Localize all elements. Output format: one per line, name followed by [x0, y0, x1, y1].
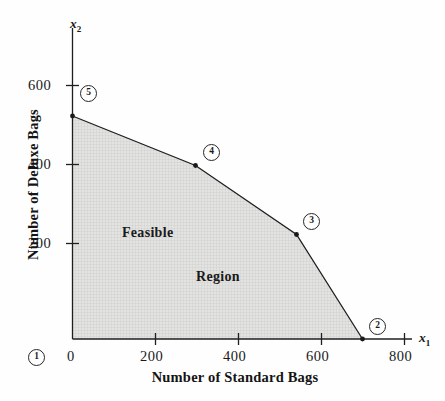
plot-canvas	[0, 0, 445, 401]
x-tick-label-800: 800	[389, 349, 412, 364]
x-axis-variable-label: x1	[419, 331, 430, 348]
feasible-annotation: Feasible	[122, 226, 173, 240]
x-tick-label-200: 200	[140, 349, 163, 364]
vertex-badge-1: 1	[28, 349, 45, 366]
x-tick-label-400: 400	[223, 349, 246, 364]
vertex-dot-3	[294, 232, 299, 237]
y-axis-variable-label: x2	[70, 17, 81, 34]
region-annotation: Region	[196, 270, 240, 284]
x-axis-title: Number of Standard Bags	[110, 369, 360, 386]
x-tick-label-600: 600	[306, 349, 329, 364]
vertex-badge-2: 2	[369, 318, 386, 335]
feasible-region-chart: x2 x1 600 400 200 0 200 400 600 800 Feas…	[0, 0, 445, 401]
vertex-badge-4: 4	[203, 144, 220, 161]
vertex-dot-5	[70, 114, 75, 119]
vertex-badge-5: 5	[80, 85, 97, 102]
vertex-dot-2	[360, 337, 365, 342]
vertex-dot-4	[193, 163, 198, 168]
y-axis-title: Number of Deluxe Bags	[25, 90, 42, 280]
x-tick-label-0: 0	[67, 349, 75, 364]
vertex-badge-3: 3	[303, 213, 320, 230]
